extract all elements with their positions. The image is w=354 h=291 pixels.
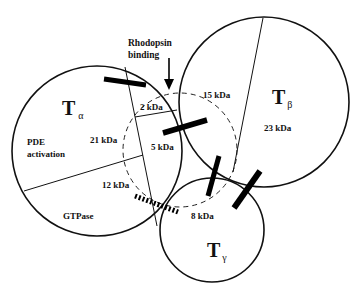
contact-bar-beta-gamma-left [208,156,219,196]
activation-label: activation [27,149,65,159]
t-beta-symbol: T [272,86,286,108]
rhodopsin-label-line1: Rhodopsin [128,38,173,48]
t-gamma-circle [160,178,264,282]
mass-15kda-label: 15 kDa [203,90,231,100]
pde-label: PDE [27,137,45,147]
t-beta-title: Tβ [272,86,292,110]
t-alpha-subscript: α [78,110,84,121]
gtpase-label: GTPase [63,211,94,221]
mass-8kda-label: 8 kDa [191,211,214,221]
beta-divider [233,18,263,172]
transducin-diagram: Rhodopsin binding Tα PDE activation 21 k… [0,0,354,291]
t-alpha-symbol: T [62,97,76,119]
mass-2kda-label: 2 kDa [140,102,163,112]
contact-bar-alpha-top [104,79,146,85]
mass-23kda-label: 23 kDa [264,123,292,133]
t-beta-subscript: β [287,99,292,110]
t-alpha-title: Tα [62,97,84,121]
rhodopsin-label-line2: binding [128,50,159,60]
mass-5kda-label: 5 kDa [151,142,174,152]
t-gamma-title: Tγ [207,239,227,263]
contact-bar-alpha-beta [163,120,207,133]
rhodopsin-arrow-icon [164,79,174,90]
t-gamma-subscript: γ [221,252,227,263]
t-gamma-symbol: T [207,239,221,261]
t-beta-circle [179,17,349,187]
mass-21kda-label: 21 kDa [90,135,118,145]
mass-12kda-label: 12 kDa [102,180,130,190]
